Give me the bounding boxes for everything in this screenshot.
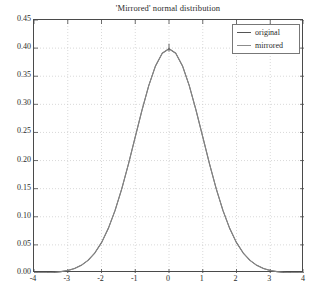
y-tick-label: 0.15: [3, 184, 31, 192]
y-tick-label: 0.40: [3, 43, 31, 51]
y-axis-tick-labels: 0.000.050.100.150.200.250.300.350.400.45: [0, 19, 31, 272]
legend-line-mirrored: [237, 45, 251, 46]
y-tick-label: 0.45: [3, 15, 31, 23]
x-tick-label: -1: [124, 274, 144, 284]
x-tick-label: 3: [259, 274, 279, 284]
y-tick-label: 0.30: [3, 99, 31, 107]
x-axis-tick-labels: -4-3-2-101234: [33, 274, 303, 288]
chart-title: 'Mirrored' normal distribution: [33, 3, 303, 13]
y-tick-label: 0.20: [3, 156, 31, 164]
legend-item-original: original: [237, 27, 299, 39]
legend-label-original: original: [255, 27, 280, 38]
x-tick-label: 4: [293, 274, 311, 284]
y-tick-label: 0.35: [3, 71, 31, 79]
grid-lines: [34, 20, 304, 273]
legend-item-mirrored: mirrored: [237, 40, 299, 52]
legend-label-mirrored: mirrored: [255, 40, 283, 51]
y-tick-label: 0.25: [3, 127, 31, 135]
legend: original mirrored: [232, 24, 300, 54]
legend-line-original: [237, 32, 251, 33]
x-tick-label: -2: [91, 274, 111, 284]
figure-canvas: 'Mirrored' normal distribution 0.000.050…: [0, 0, 311, 294]
y-tick-label: 0.10: [3, 212, 31, 220]
x-tick-label: 2: [226, 274, 246, 284]
x-tick-label: -3: [57, 274, 77, 284]
plot-area: [33, 19, 303, 272]
plot-svg: [34, 20, 304, 273]
y-tick-label: 0.05: [3, 240, 31, 248]
x-tick-label: -4: [23, 274, 43, 284]
x-tick-label: 0: [158, 274, 178, 284]
x-tick-label: 1: [192, 274, 212, 284]
